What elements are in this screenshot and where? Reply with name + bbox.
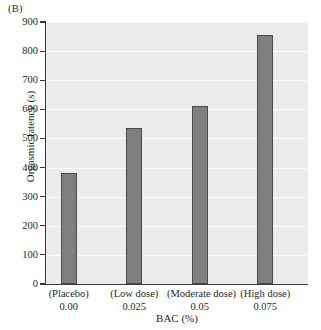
y-axis-tick-label: 700 <box>0 75 38 86</box>
y-axis-tick-label: 0 <box>0 279 38 290</box>
y-axis-tick-mark <box>40 21 46 22</box>
x-axis-tick-group: (Moderate dose)0.05 <box>167 287 233 313</box>
y-axis-tick-mark <box>40 254 46 255</box>
y-axis-tick-mark <box>40 109 46 110</box>
x-axis-category-label: (Low dose) <box>102 287 168 300</box>
x-axis-category-label: (High dose) <box>233 287 299 300</box>
y-axis-tick-label: 900 <box>0 17 38 28</box>
bar <box>61 173 77 284</box>
y-axis-tick-label: 300 <box>0 192 38 203</box>
y-axis-tick-label: 400 <box>0 163 38 174</box>
panel-label: (B) <box>8 3 23 15</box>
x-axis-tick-group: (High dose)0.075 <box>233 287 299 313</box>
x-axis-tick-group: (Low dose)0.025 <box>102 287 168 313</box>
y-axis-tick-mark <box>40 225 46 226</box>
x-axis-value-label: 0.05 <box>167 300 233 313</box>
bar <box>192 106 208 284</box>
bar <box>257 35 273 284</box>
figure-panel-b: (B) Orgasmic latency (s) BAC (%) 0100200… <box>0 0 321 330</box>
y-axis-tick-mark <box>40 167 46 168</box>
y-axis-tick-label: 100 <box>0 250 38 261</box>
x-axis-value-label: 0.00 <box>36 300 102 313</box>
x-axis-value-label: 0.075 <box>233 300 299 313</box>
x-axis-title: BAC (%) <box>46 312 308 325</box>
y-axis-tick-label: 800 <box>0 46 38 57</box>
bar <box>126 128 142 284</box>
y-axis-tick-mark <box>40 138 46 139</box>
y-axis-tick-label: 500 <box>0 133 38 144</box>
x-axis-category-label: (Placebo) <box>36 287 102 300</box>
x-axis-tick-group: (Placebo)0.00 <box>36 287 102 313</box>
y-axis-tick-label: 200 <box>0 221 38 232</box>
y-axis-tick-mark <box>40 51 46 52</box>
x-axis-value-label: 0.025 <box>102 300 168 313</box>
gridline <box>46 22 308 23</box>
y-axis-line <box>45 21 46 285</box>
y-axis-tick-mark <box>40 80 46 81</box>
y-axis-tick-mark <box>40 196 46 197</box>
y-axis-tick-mark <box>40 283 46 284</box>
x-axis-category-label: (Moderate dose) <box>167 287 233 300</box>
y-axis-tick-label: 600 <box>0 104 38 115</box>
